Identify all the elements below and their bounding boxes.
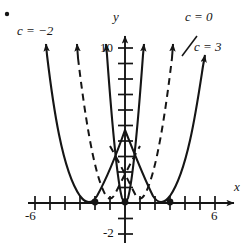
curve-label-c-neg2: c = −2: [17, 24, 53, 37]
x-tick-label-neg6: -6: [25, 209, 36, 222]
vertex-point: [167, 199, 174, 206]
curve-label-c-0: c = 0: [185, 10, 213, 23]
curve-label-c-3: c = 3: [194, 40, 222, 53]
y-axis-label: y: [113, 10, 119, 23]
vertex-point: [122, 199, 129, 206]
x-axis-label: x: [234, 180, 240, 193]
vertex-point: [92, 199, 99, 206]
graph-figure: c = −2 c = 0 c = 3 y x 10 -2 -6 6: [0, 0, 248, 249]
x-tick-label-6: 6: [211, 209, 218, 222]
y-tick-label-10: 10: [100, 41, 113, 54]
y-tick-label-neg2: -2: [103, 226, 114, 239]
bullet-marker: [5, 12, 9, 16]
